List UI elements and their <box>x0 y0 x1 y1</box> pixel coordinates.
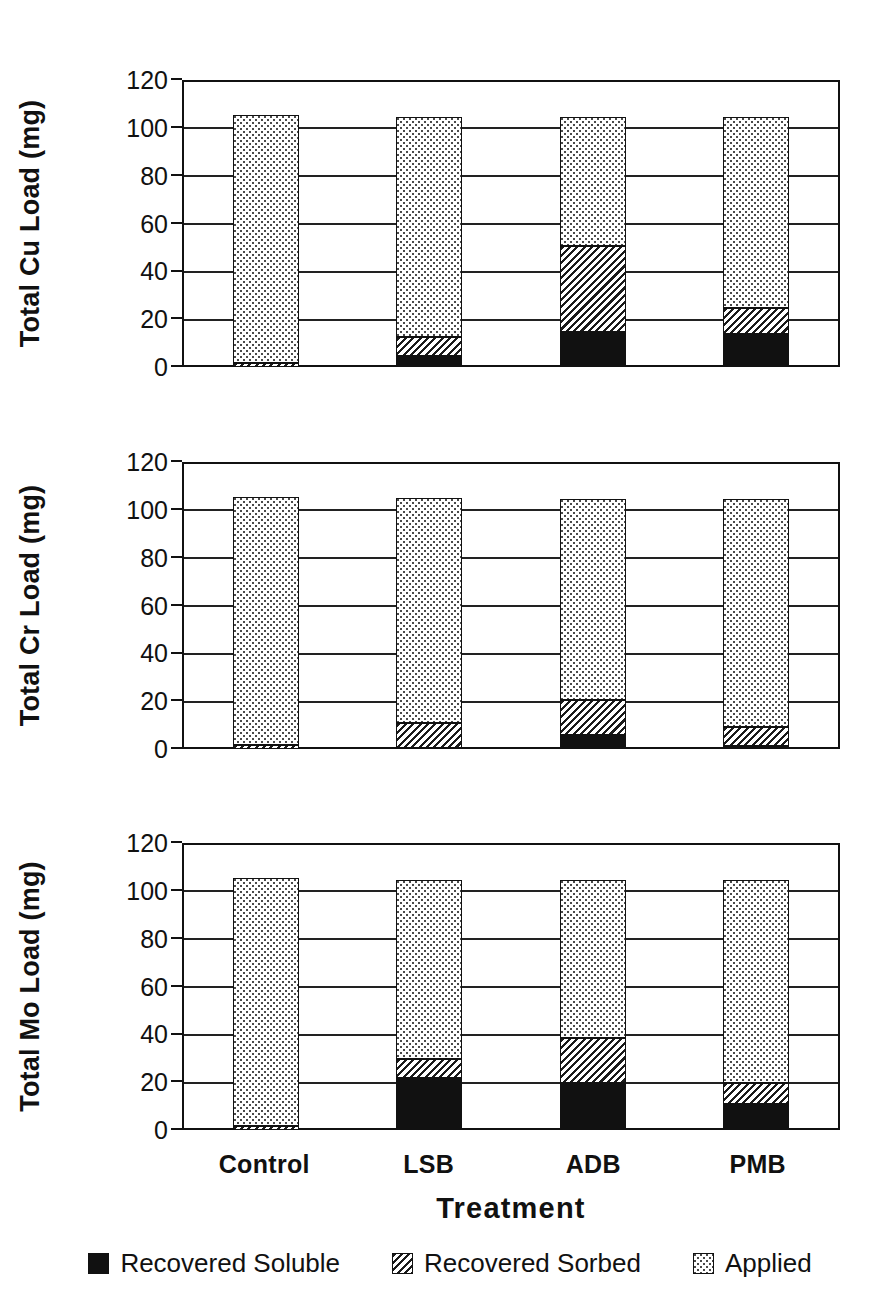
y-tick-mark <box>171 1128 182 1130</box>
stacked-bar[interactable] <box>723 499 789 747</box>
bar-segment-applied <box>723 880 789 1083</box>
legend-item[interactable]: Recovered Soluble <box>88 1248 340 1279</box>
y-tick-mark <box>171 1080 182 1082</box>
y-tick-mark <box>171 889 182 891</box>
y-tick-label: 80 <box>106 545 168 570</box>
x-category-label: PMB <box>676 1150 841 1179</box>
y-tick-mark <box>171 841 182 843</box>
y-tick-label: 0 <box>106 737 168 762</box>
bar-slot <box>511 845 675 1128</box>
legend-item[interactable]: Applied <box>693 1248 812 1279</box>
y-tick-mark <box>171 460 182 462</box>
y-tick-mark <box>171 985 182 987</box>
bar-slot <box>184 82 348 365</box>
y-tick-mark <box>171 1033 182 1035</box>
y-tick-mark <box>171 508 182 510</box>
y-tick-label: 40 <box>106 1022 168 1047</box>
y-tick-label: 20 <box>106 307 168 332</box>
y-axis-label: Total Cr Load (mg) <box>8 448 52 763</box>
y-tick-label: 80 <box>106 163 168 188</box>
y-tick-label: 20 <box>106 1070 168 1095</box>
x-category-label: LSB <box>347 1150 512 1179</box>
y-tick-mark <box>171 270 182 272</box>
bar-segment-applied <box>560 117 626 246</box>
bar-segment-applied <box>723 499 789 727</box>
y-tick-label: 60 <box>106 974 168 999</box>
y-tick-label: 60 <box>106 211 168 236</box>
stacked-bar[interactable] <box>560 117 626 365</box>
y-tick-mark <box>171 317 182 319</box>
y-tick-mark <box>171 174 182 176</box>
y-tick-mark <box>171 78 182 80</box>
y-tick-label: 0 <box>106 355 168 380</box>
bar-segment-applied <box>723 117 789 308</box>
x-axis-categories: ControlLSBADBPMB <box>182 1150 840 1179</box>
y-tick-label: 40 <box>106 259 168 284</box>
y-tick-label: 60 <box>106 593 168 618</box>
bar-segment-soluble <box>723 745 789 749</box>
stacked-bar[interactable] <box>560 499 626 747</box>
bar-segment-sorbed <box>560 700 626 736</box>
legend-swatch-icon <box>88 1253 109 1274</box>
bar-slot <box>184 845 348 1128</box>
legend-label: Recovered Soluble <box>120 1248 340 1279</box>
y-tick-mark <box>171 652 182 654</box>
bar-slot <box>184 464 348 747</box>
legend-item[interactable]: Recovered Sorbed <box>392 1248 641 1279</box>
bar-slot <box>348 82 512 365</box>
stacked-bar[interactable] <box>723 117 789 365</box>
bar-group <box>184 845 838 1128</box>
y-tick-mark <box>171 126 182 128</box>
bar-segment-sorbed <box>723 1083 789 1105</box>
bar-slot <box>675 845 839 1128</box>
y-tick-label: 100 <box>106 878 168 903</box>
legend: Recovered SolubleRecovered SorbedApplied <box>60 1248 840 1279</box>
stacked-bar[interactable] <box>723 880 789 1128</box>
stacked-bar[interactable] <box>233 115 299 365</box>
y-axis-ticks: 020406080100120 <box>106 80 168 367</box>
bar-segment-applied <box>560 880 626 1038</box>
bar-segment-applied <box>396 117 462 337</box>
stacked-bar[interactable] <box>233 878 299 1128</box>
bar-group <box>184 82 838 365</box>
y-tick-label: 120 <box>106 68 168 93</box>
bar-slot <box>348 464 512 747</box>
bar-segment-applied <box>560 499 626 700</box>
bar-segment-sorbed <box>233 745 299 749</box>
bar-segment-sorbed <box>396 723 462 748</box>
bar-segment-sorbed <box>396 1059 462 1078</box>
stacked-bar[interactable] <box>233 497 299 747</box>
y-axis-ticks: 020406080100120 <box>106 462 168 749</box>
y-tick-label: 40 <box>106 641 168 666</box>
bar-group <box>184 464 838 747</box>
bar-slot <box>675 464 839 747</box>
y-tick-mark <box>171 937 182 939</box>
bar-segment-sorbed <box>233 363 299 367</box>
legend-swatch-icon <box>693 1253 714 1274</box>
plot-area <box>182 80 840 367</box>
y-axis-label: Total Mo Load (mg) <box>8 829 52 1144</box>
y-tick-label: 100 <box>106 497 168 522</box>
bar-segment-applied <box>396 880 462 1059</box>
stacked-bar[interactable] <box>396 117 462 365</box>
bar-slot <box>511 82 675 365</box>
y-tick-label: 120 <box>106 450 168 475</box>
bar-segment-sorbed <box>560 1038 626 1083</box>
y-tick-label: 0 <box>106 1118 168 1143</box>
x-axis-title: Treatment <box>182 1192 840 1225</box>
bar-segment-soluble <box>560 331 626 367</box>
bar-slot <box>675 82 839 365</box>
plot-area <box>182 462 840 749</box>
bar-segment-soluble <box>396 1077 462 1130</box>
legend-swatch-icon <box>392 1253 413 1274</box>
stacked-bar[interactable] <box>396 880 462 1128</box>
stacked-bar[interactable] <box>396 498 462 747</box>
y-tick-label: 80 <box>106 926 168 951</box>
legend-label: Applied <box>725 1248 812 1279</box>
bar-segment-applied <box>233 115 299 363</box>
bar-segment-applied <box>396 498 462 723</box>
bar-segment-soluble <box>396 355 462 367</box>
legend-label: Recovered Sorbed <box>424 1248 641 1279</box>
stacked-bar[interactable] <box>560 880 626 1128</box>
bar-segment-soluble <box>396 747 462 749</box>
